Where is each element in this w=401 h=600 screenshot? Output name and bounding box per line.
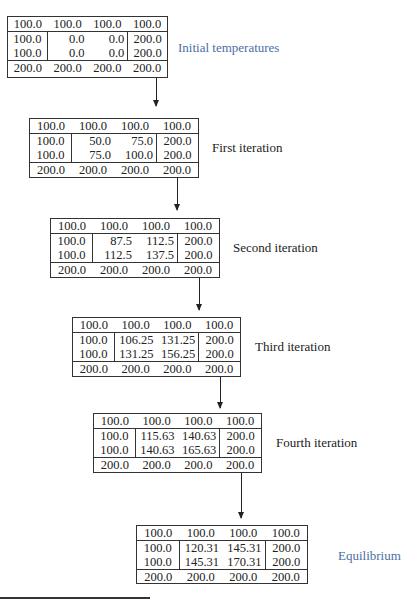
temperature-grid-3: 100.0100.0100.0100.0100.0100.0106.25131.… <box>72 317 241 377</box>
cell: 100.0 <box>114 119 156 133</box>
temperature-grid-0: 100.0100.0100.0100.0100.0100.00.00.00.00… <box>7 16 168 78</box>
bottom-boundary-row: 200.0200.0200.0200.0 <box>94 457 261 472</box>
left-boundary-cell: 100.0 <box>51 234 92 248</box>
interior-cell: 112.5 <box>135 234 177 248</box>
stage-label-1: First iteration <box>212 140 282 156</box>
down-arrow-icon <box>177 178 178 210</box>
bottom-boundary-row: 200.0200.0200.0200.0 <box>8 60 167 75</box>
bottom-boundary-row: 200.0200.0200.0200.0 <box>51 262 219 277</box>
cell: 100.0 <box>137 526 180 540</box>
interior-cell: 0.0 <box>48 46 88 60</box>
cell: 200.0 <box>94 458 136 472</box>
stage-label-2: Second iteration <box>233 240 318 256</box>
interior-cell: 137.5 <box>135 248 177 262</box>
interior-cell: 120.31 <box>180 541 223 555</box>
interior-block: 100.0100.0115.63140.63140.63165.63200.02… <box>94 429 261 457</box>
cell: 200.0 <box>73 362 115 376</box>
cell: 200.0 <box>177 263 219 277</box>
interior-block: 100.0100.087.5112.5112.5137.5200.0200.0 <box>51 234 219 262</box>
cell: 200.0 <box>156 163 198 177</box>
cell: 200.0 <box>265 570 308 584</box>
down-arrow-icon <box>241 473 242 518</box>
cell: 100.0 <box>48 17 88 31</box>
right-boundary-cell: 200.0 <box>199 333 240 347</box>
temperature-grid-4: 100.0100.0100.0100.0100.0100.0115.63140.… <box>93 413 262 473</box>
cell: 100.0 <box>180 526 223 540</box>
interior-cell: 50.0 <box>72 134 114 148</box>
left-boundary-cell: 100.0 <box>137 555 179 569</box>
left-boundary-cell: 100.0 <box>94 429 135 443</box>
right-boundary-cell: 200.0 <box>128 32 167 46</box>
cell: 200.0 <box>93 263 135 277</box>
cell: 200.0 <box>178 458 220 472</box>
interior-cell: 145.31 <box>180 555 223 569</box>
left-boundary-cell: 100.0 <box>73 333 114 347</box>
cell: 200.0 <box>137 570 180 584</box>
top-boundary-row: 100.0100.0100.0100.0 <box>30 119 198 134</box>
cell: 200.0 <box>222 570 265 584</box>
right-boundary-cell: 200.0 <box>266 555 308 569</box>
interior-cell: 106.25 <box>115 333 157 347</box>
cell: 100.0 <box>8 17 48 31</box>
interior-cell: 140.63 <box>136 443 178 457</box>
left-boundary-cell: 100.0 <box>73 347 114 361</box>
interior-cell: 112.5 <box>93 248 135 262</box>
cell: 200.0 <box>51 263 93 277</box>
stage-label-0: Initial temperatures <box>178 40 279 56</box>
left-boundary-cell: 100.0 <box>51 248 92 262</box>
down-arrow-icon <box>220 377 221 408</box>
left-boundary-cell: 100.0 <box>137 541 179 555</box>
interior-cell: 145.31 <box>222 541 265 555</box>
cell: 100.0 <box>198 318 240 332</box>
stage-label-5: Equilibrium <box>338 548 401 564</box>
down-arrow-icon <box>199 278 200 310</box>
right-boundary-cell: 200.0 <box>199 347 240 361</box>
cell: 100.0 <box>115 318 157 332</box>
cell: 200.0 <box>157 362 199 376</box>
cell: 200.0 <box>72 163 114 177</box>
interior-block: 100.0100.0120.31145.31145.31170.31200.02… <box>137 541 307 569</box>
cell: 100.0 <box>51 219 93 233</box>
right-boundary-cell: 200.0 <box>220 429 261 443</box>
cell: 100.0 <box>157 318 199 332</box>
cell: 200.0 <box>115 362 157 376</box>
right-boundary-cell: 200.0 <box>128 46 167 60</box>
interior-cell: 87.5 <box>93 234 135 248</box>
cell: 100.0 <box>177 219 219 233</box>
cell: 200.0 <box>114 163 156 177</box>
right-boundary-cell: 200.0 <box>178 248 219 262</box>
right-boundary-cell: 200.0 <box>220 443 261 457</box>
interior-cell: 131.25 <box>115 347 157 361</box>
left-boundary-cell: 100.0 <box>8 32 47 46</box>
interior-block: 100.0100.0106.25131.25131.25156.25200.02… <box>73 333 240 361</box>
left-boundary-cell: 100.0 <box>94 443 135 457</box>
interior-cell: 0.0 <box>88 46 128 60</box>
cell: 100.0 <box>72 119 114 133</box>
cell: 200.0 <box>88 61 128 75</box>
bottom-boundary-row: 200.0200.0200.0200.0 <box>30 162 198 177</box>
cell: 100.0 <box>127 17 167 31</box>
cell: 200.0 <box>180 570 223 584</box>
right-boundary-cell: 200.0 <box>157 134 198 148</box>
stage-label-4: Fourth iteration <box>276 435 357 451</box>
cell: 200.0 <box>136 458 178 472</box>
interior-block: 100.0100.050.075.075.0100.0200.0200.0 <box>30 134 198 162</box>
right-boundary-cell: 200.0 <box>157 148 198 162</box>
top-boundary-row: 100.0100.0100.0100.0 <box>73 318 240 333</box>
stage-label-3: Third iteration <box>255 339 330 355</box>
interior-cell: 131.25 <box>157 333 199 347</box>
temperature-grid-1: 100.0100.0100.0100.0100.0100.050.075.075… <box>29 118 199 178</box>
cell: 100.0 <box>178 414 220 428</box>
cell: 200.0 <box>30 163 72 177</box>
cell: 100.0 <box>93 219 135 233</box>
cell: 100.0 <box>136 414 178 428</box>
interior-cell: 0.0 <box>48 32 88 46</box>
interior-cell: 75.0 <box>114 134 156 148</box>
interior-cell: 100.0 <box>114 148 156 162</box>
interior-cell: 170.31 <box>222 555 265 569</box>
cell: 200.0 <box>8 61 48 75</box>
top-boundary-row: 100.0100.0100.0100.0 <box>137 526 307 541</box>
cell: 100.0 <box>222 526 265 540</box>
top-boundary-row: 100.0100.0100.0100.0 <box>8 17 167 32</box>
top-boundary-row: 100.0100.0100.0100.0 <box>51 219 219 234</box>
